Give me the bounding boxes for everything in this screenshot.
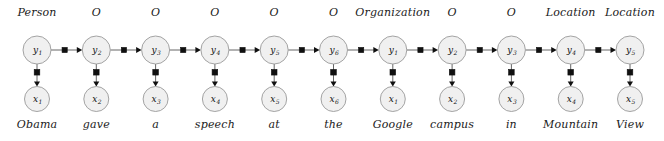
y-node-2[interactable]: y2 (82, 36, 110, 64)
y-node-5[interactable]: y5 (260, 36, 288, 64)
svg-text:1: 1 (394, 98, 398, 105)
transition-edge-9 (525, 47, 556, 53)
svg-text:1: 1 (38, 49, 42, 56)
y-node-11[interactable]: y5 (616, 36, 644, 64)
word-label-6: the (324, 118, 343, 131)
diagram-canvas: y1y2y3y4y5y6y1y2y3y4y5x1x2x3x4x5x6x1x2x3… (0, 0, 664, 141)
arrowhead (77, 47, 83, 53)
emission-edge-11 (627, 64, 633, 87)
svg-text:5: 5 (631, 98, 635, 105)
x-node-7[interactable]: x1 (380, 87, 405, 112)
emission-edge-9 (508, 64, 514, 87)
x-node-11[interactable]: x5 (618, 87, 643, 112)
factor-square (568, 69, 574, 75)
y-node-6[interactable]: y6 (320, 36, 348, 64)
svg-text:x: x (152, 94, 157, 104)
arrowhead (373, 47, 379, 53)
factor-square (34, 69, 40, 75)
factor-square (596, 47, 601, 52)
x-node-3[interactable]: x3 (143, 87, 168, 112)
emission-edge-1 (34, 64, 40, 87)
y-node-9[interactable]: y3 (497, 36, 525, 64)
arrowhead (271, 82, 277, 87)
y-node-7[interactable]: y1 (379, 36, 407, 64)
transition-edge-2 (110, 47, 141, 53)
svg-text:3: 3 (157, 98, 161, 105)
y-node-8[interactable]: y2 (438, 36, 466, 64)
arrowhead (627, 82, 633, 87)
word-label-9: in (506, 118, 517, 131)
factor-square (359, 47, 364, 52)
word-label-1: Obama (17, 118, 58, 131)
factor-square (449, 69, 455, 75)
factor-square (509, 69, 515, 75)
factor-square (181, 47, 186, 52)
transition-edge-8 (466, 47, 497, 53)
svg-text:x: x (270, 94, 275, 104)
factor-square (240, 47, 245, 52)
arrowhead (508, 82, 514, 87)
x-node-6[interactable]: x6 (321, 87, 346, 112)
x-node-2[interactable]: x2 (84, 87, 109, 112)
word-label-10: Mountain (543, 118, 598, 131)
arrowhead (212, 82, 218, 87)
transition-edge-3 (170, 47, 201, 53)
word-label-4: speech (195, 118, 235, 131)
x-node-9[interactable]: x3 (499, 87, 524, 112)
word-label-3: a (152, 118, 159, 131)
transition-edge-5 (288, 47, 319, 53)
transition-edge-1 (51, 47, 82, 53)
word-label-2: gave (83, 118, 110, 131)
svg-text:x: x (507, 94, 512, 104)
svg-text:x: x (567, 94, 572, 104)
factor-square (477, 47, 482, 52)
arrowhead (568, 82, 574, 87)
svg-text:x: x (92, 94, 97, 104)
svg-text:2: 2 (97, 98, 102, 105)
x-node-5[interactable]: x5 (262, 87, 287, 112)
transition-edge-4 (229, 47, 260, 53)
svg-text:1: 1 (38, 98, 42, 105)
tag-label-5: O (270, 6, 279, 19)
svg-text:3: 3 (513, 49, 517, 56)
arrowhead (314, 47, 320, 53)
x-node-4[interactable]: x4 (202, 87, 227, 112)
tag-label-9: O (507, 6, 516, 19)
y-node-3[interactable]: y3 (142, 36, 170, 64)
arrowhead (551, 47, 557, 53)
tag-label-6: O (329, 6, 338, 19)
svg-text:2: 2 (97, 49, 102, 56)
svg-text:1: 1 (394, 49, 398, 56)
emission-edge-6 (331, 64, 337, 87)
y-node-1[interactable]: y1 (23, 36, 51, 64)
svg-text:x: x (448, 94, 453, 104)
svg-text:x: x (329, 94, 334, 104)
y-node-4[interactable]: y4 (201, 36, 229, 64)
factor-square (153, 69, 159, 75)
factor-square (94, 69, 100, 75)
transition-edge-7 (407, 47, 438, 53)
factor-square (299, 47, 304, 52)
tag-label-8: O (447, 6, 456, 19)
arrowhead (611, 47, 617, 53)
factor-square (331, 69, 337, 75)
svg-text:4: 4 (571, 98, 576, 105)
svg-text:5: 5 (631, 49, 635, 56)
tag-label-1: Person (17, 6, 56, 19)
emission-edge-2 (93, 64, 99, 87)
svg-text:x: x (33, 94, 38, 104)
x-node-1[interactable]: x1 (25, 87, 50, 112)
y-node-10[interactable]: y4 (557, 36, 585, 64)
x-node-10[interactable]: x4 (558, 87, 583, 112)
tag-label-10: Location (546, 6, 596, 19)
svg-text:6: 6 (335, 49, 339, 56)
arrowhead (136, 47, 142, 53)
x-node-8[interactable]: x2 (440, 87, 465, 112)
tag-label-7: Organization (355, 6, 430, 19)
arrowhead (93, 82, 99, 87)
factor-square (212, 69, 218, 75)
svg-text:6: 6 (335, 98, 339, 105)
arrowhead (195, 47, 201, 53)
word-label-11: View (616, 118, 644, 131)
emission-edge-8 (449, 64, 455, 87)
